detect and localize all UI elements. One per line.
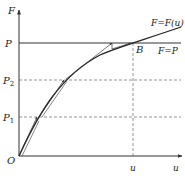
diagram-canvas: F O u u P P2 P1 B F=F(u) F=P (0, 0, 185, 180)
level-p2-label: P2 (2, 75, 14, 88)
step-1b-line (22, 121, 39, 156)
curve-f-of-u (19, 27, 181, 156)
level-p-label: P (4, 38, 12, 49)
step-3-line (66, 43, 112, 79)
step-4-line (112, 43, 131, 49)
step-2-line (39, 80, 64, 117)
x-axis-label: u (173, 163, 179, 173)
level-p1-label: P1 (2, 112, 14, 125)
step-2b-line (42, 81, 67, 117)
step-1-line (19, 117, 37, 156)
x-marker-label: u (130, 163, 136, 173)
point-b-label: B (135, 44, 143, 55)
y-axis-label: F (7, 5, 16, 16)
curve-label: F=F(u) (150, 18, 184, 28)
origin-label: O (7, 155, 15, 166)
load-line-label: F=P (157, 46, 179, 56)
